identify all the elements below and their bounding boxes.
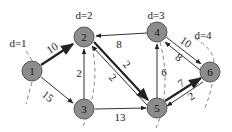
edge-weight-4-2: 8 (116, 38, 122, 50)
edge-weight-1-3: 15 (40, 88, 56, 105)
node-5: 5 (147, 98, 167, 118)
node-label-6: 6 (207, 66, 213, 78)
node-label-5: 5 (154, 102, 160, 114)
node-4: 4 (147, 22, 167, 42)
node-label-1: 1 (29, 65, 35, 77)
node-6: 6 (200, 62, 220, 82)
edge-weight-2-5: 2 (121, 58, 133, 70)
node-label-2: 2 (81, 31, 87, 43)
node-1: 1 (22, 61, 42, 81)
edge-2-5 (94, 42, 148, 100)
node-3: 3 (74, 99, 94, 119)
edge-4-2 (96, 33, 147, 36)
node-label-4: 4 (154, 26, 160, 38)
edge-weight-5-4: 6 (161, 66, 167, 78)
node-2: 2 (74, 27, 94, 47)
distance-label-d3: d=3 (147, 9, 165, 21)
graph-diagram: 10 15 2 8 2 2 13 6 10 8 7 2 1 2 (0, 0, 232, 132)
edge-weight-3-2: 2 (76, 67, 82, 79)
edge-weight-5-2: 2 (107, 71, 119, 83)
distance-label-d2: d=2 (75, 9, 92, 21)
distance-label-d4: d=4 (194, 29, 212, 41)
edges: 10 15 2 8 2 2 13 6 10 8 7 2 (40, 33, 203, 123)
node-label-3: 3 (81, 103, 87, 115)
edge-weight-3-5: 13 (115, 111, 127, 123)
edge-3-5 (95, 108, 146, 109)
distance-label-d1: d=1 (9, 37, 26, 49)
edge-weight-6-5: 2 (185, 90, 196, 103)
edge-5-2 (92, 46, 148, 106)
